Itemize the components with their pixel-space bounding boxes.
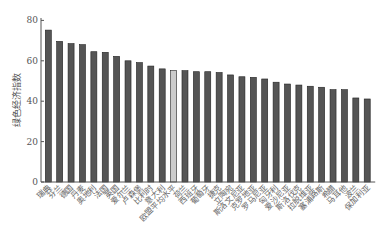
bar (91, 52, 97, 182)
y-tick-label: 80 (27, 15, 39, 25)
bar (364, 99, 370, 182)
bar (216, 73, 222, 182)
bar-highlight (171, 71, 177, 182)
bar (182, 71, 188, 182)
bar (102, 52, 108, 182)
bar (45, 30, 51, 182)
bar (57, 41, 63, 182)
bar (262, 79, 268, 182)
bars (45, 30, 370, 182)
bar (148, 66, 154, 182)
bar (159, 69, 165, 182)
bar (341, 90, 347, 182)
bar (353, 98, 359, 182)
bar (68, 44, 74, 182)
bar (284, 84, 290, 182)
bar (273, 82, 279, 182)
y-axis: 020406080 (27, 15, 44, 187)
bar (296, 85, 302, 182)
bar (228, 75, 234, 182)
x-axis-labels: 瑞典芬兰德国丹麦奥地利法国英国爱尔兰卢森堡比利时意大利欧盟平均水平荷兰西班牙葡萄… (34, 182, 371, 223)
bar (114, 56, 120, 182)
y-tick-label: 40 (27, 96, 39, 106)
bar (330, 90, 336, 182)
bar (319, 87, 325, 182)
y-axis-label: 绿色经济指数 (11, 73, 22, 127)
y-tick-label: 0 (32, 177, 38, 187)
bar (239, 77, 245, 182)
bar (79, 45, 85, 182)
bar (250, 77, 256, 182)
bar (136, 63, 142, 182)
bar (125, 61, 131, 182)
y-tick-label: 20 (27, 137, 39, 147)
bar (193, 72, 199, 182)
bar (307, 86, 313, 182)
bar-chart: 020406080 绿色经济指数 瑞典芬兰德国丹麦奥地利法国英国爱尔兰卢森堡比利… (0, 0, 389, 237)
y-tick-label: 60 (27, 56, 39, 66)
bar (205, 72, 211, 182)
